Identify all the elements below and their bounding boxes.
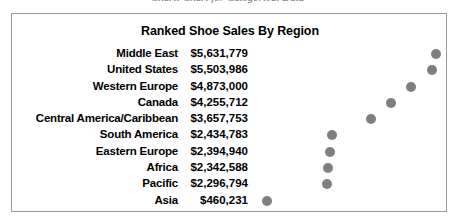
row-category-label: Central America/Caribbean [12,112,178,124]
data-point-dot [322,179,332,189]
chart-row: United States$5,503,986 [12,62,448,78]
row-dot-lane [252,144,448,160]
data-point-dot [386,98,396,108]
row-value-label: $5,631,779 [180,47,248,59]
chart-row: Asia$460,231 [12,193,448,209]
row-category-label: Canada [12,96,178,108]
row-category-label: Pacific [12,177,178,189]
chart-row: Central America/Caribbean$3,657,753 [12,111,448,127]
row-category-label: Africa [12,161,178,173]
row-category-label: Middle East [12,47,178,59]
row-value-label: $2,342,588 [180,161,248,173]
dot-plot-rows: Middle East$5,631,779United States$5,503… [12,46,448,209]
row-dot-lane [252,79,448,95]
chart-frame: Ranked Shoe Sales By Region Middle East$… [11,13,447,212]
row-dot-lane [252,46,448,62]
data-point-dot [431,49,441,59]
row-category-label: United States [12,63,178,75]
data-point-dot [366,114,376,124]
chart-row: Pacific$2,296,794 [12,176,448,192]
row-dot-lane [252,193,448,209]
row-value-label: $4,873,000 [180,80,248,92]
row-value-label: $4,255,712 [180,96,248,108]
row-dot-lane [252,176,448,192]
row-value-label: $460,231 [180,194,248,206]
data-point-dot [406,82,416,92]
chart-row: Western Europe$4,873,000 [12,79,448,95]
row-category-label: Eastern Europe [12,145,178,157]
data-point-dot [323,163,333,173]
chart-row: Eastern Europe$2,394,940 [12,144,448,160]
row-dot-lane [252,111,448,127]
row-category-label: Western Europe [12,80,178,92]
figure-caption-clipped: Chart: Chart for Categorical Data [0,0,455,12]
row-value-label: $2,296,794 [180,177,248,189]
data-point-dot [327,130,337,140]
data-point-dot [325,147,335,157]
chart-row: Canada$4,255,712 [12,95,448,111]
row-category-label: South America [12,128,178,140]
row-dot-lane [252,95,448,111]
row-value-label: $5,503,986 [180,63,248,75]
row-value-label: $2,394,940 [180,145,248,157]
row-category-label: Asia [12,194,178,206]
chart-row: Middle East$5,631,779 [12,46,448,62]
figure-caption-text: Chart: Chart for Categorical Data [0,0,455,3]
chart-row: South America$2,434,783 [12,127,448,143]
row-dot-lane [252,62,448,78]
row-value-label: $3,657,753 [180,112,248,124]
chart-row: Africa$2,342,588 [12,160,448,176]
chart-title: Ranked Shoe Sales By Region [12,24,448,38]
data-point-dot [262,196,272,206]
row-value-label: $2,434,783 [180,128,248,140]
row-dot-lane [252,160,448,176]
row-dot-lane [252,127,448,143]
data-point-dot [427,65,437,75]
